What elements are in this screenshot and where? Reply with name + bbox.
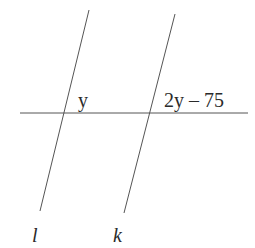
line-label-l: l bbox=[32, 225, 38, 245]
angle-label-y: y bbox=[78, 90, 88, 110]
line-label-k: k bbox=[113, 225, 122, 245]
angle-label-2y-minus-75: 2y – 75 bbox=[164, 90, 224, 110]
diagram-canvas: y 2y – 75 l k bbox=[0, 0, 255, 248]
lines-svg bbox=[0, 0, 255, 248]
